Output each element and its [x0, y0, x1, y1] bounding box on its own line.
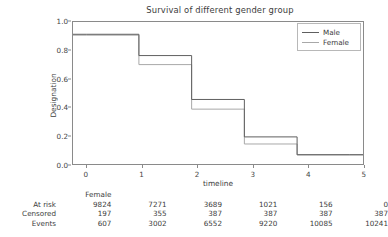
cell: 9824: [56, 200, 111, 210]
cell: 387: [277, 209, 332, 219]
legend-item-label: Male: [323, 28, 340, 37]
cell: 3002: [111, 219, 166, 229]
table-row-header: Female: [0, 190, 388, 200]
table-row: Censored 197 355 387 387 387 387: [0, 209, 388, 219]
x-tick-label: 3: [241, 170, 265, 179]
x-tick-mark: [142, 165, 143, 168]
legend-line-icon: [302, 32, 319, 33]
y-tick-mark: [68, 165, 71, 166]
row-label-at-risk: At risk: [0, 200, 56, 210]
x-tick-label: 4: [296, 170, 320, 179]
cell: 1021: [222, 200, 277, 210]
x-tick-label: 1: [130, 170, 154, 179]
cell: 607: [56, 219, 111, 229]
cell: 10085: [277, 219, 332, 229]
x-tick-mark: [364, 165, 365, 168]
male-curve: [73, 34, 363, 154]
y-tick-label: 1.0: [34, 17, 68, 26]
legend-line-icon: [302, 42, 319, 43]
x-tick-label: 2: [185, 170, 209, 179]
y-tick-mark: [68, 78, 71, 79]
x-tick-mark: [253, 165, 254, 168]
legend-item-label: Female: [323, 38, 349, 47]
cell: 197: [56, 209, 111, 219]
y-tick-mark: [68, 49, 71, 50]
cell: 355: [111, 209, 166, 219]
cell: 387: [167, 209, 222, 219]
x-tick-mark: [308, 165, 309, 168]
y-axis-label: Designation: [49, 51, 58, 141]
row-label-censored: Censored: [0, 209, 56, 219]
y-tick-mark: [68, 21, 71, 22]
table-row: At risk 9824 7271 3689 1021 156 0: [0, 200, 388, 210]
y-tick-mark: [68, 107, 71, 108]
cell: 387: [222, 209, 277, 219]
x-tick-mark: [86, 165, 87, 168]
x-tick-mark: [197, 165, 198, 168]
row-label-events: Events: [0, 219, 56, 229]
group-header-spacer: [0, 190, 56, 200]
page-title: Survival of different gender group: [70, 5, 370, 15]
table-row: Events 607 3002 6552 9220 10085 10241: [0, 219, 388, 229]
cell: 387: [333, 209, 388, 219]
cell: 3689: [167, 200, 222, 210]
cell: 156: [277, 200, 332, 210]
legend-item-male[interactable]: Male: [300, 27, 357, 37]
legend-item-female[interactable]: Female: [300, 37, 357, 47]
x-axis-label: timeline: [72, 179, 364, 188]
group-header-label: Female: [56, 190, 111, 200]
x-tick-label: 5: [352, 170, 376, 179]
cell: 9220: [222, 219, 277, 229]
risk-counts-table: Female At risk 9824 7271 3689 1021 156 0…: [0, 190, 388, 228]
cell: 10241: [333, 219, 388, 229]
at-risk-table: Female At risk 9824 7271 3689 1021 156 0…: [0, 190, 388, 228]
cell: 7271: [111, 200, 166, 210]
x-tick-label: 0: [74, 170, 98, 179]
legend: Male Female: [297, 23, 361, 51]
matplotlib-figure: Survival of different gender group 1.0 0…: [0, 0, 388, 237]
cell: 6552: [167, 219, 222, 229]
female-curve: [73, 35, 363, 155]
cell: 0: [333, 200, 388, 210]
y-axis-ticks: 1.0 0.8 0.6 0.4 0.2 0.0 Designation: [32, 21, 68, 165]
y-tick-mark: [68, 136, 71, 137]
y-tick-label: 0.0: [34, 161, 68, 170]
